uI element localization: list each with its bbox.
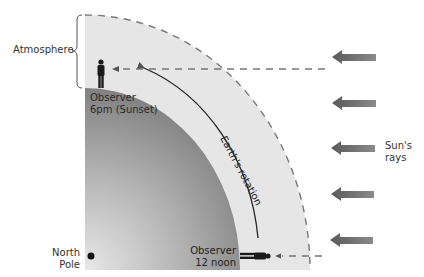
observer-noon-label: Observer 12 noon xyxy=(182,245,236,269)
sun-ray-arrow-icon xyxy=(330,233,373,247)
sun-ray-arrow-icon xyxy=(332,96,376,110)
north-pole-line1: North xyxy=(40,247,80,259)
atmosphere-label: Atmosphere xyxy=(13,44,74,56)
north-pole-label: North Pole xyxy=(40,247,80,271)
north-pole-dot xyxy=(88,253,95,260)
sun-rays-line1: Sun's xyxy=(385,140,412,152)
observer-noon-line1: Observer xyxy=(182,245,236,257)
observer-sunset-label: Observer 6pm (Sunset) xyxy=(90,92,158,116)
observer-sunset-line2: 6pm (Sunset) xyxy=(90,104,158,116)
sun-ray-arrow-icon xyxy=(332,50,376,64)
sun-rays-line2: rays xyxy=(385,152,412,164)
sun-ray-arrow-icon xyxy=(331,141,375,155)
sun-rays-label: Sun's rays xyxy=(385,140,412,164)
observer-sunset-line1: Observer xyxy=(90,92,158,104)
diagram-canvas xyxy=(0,0,424,277)
sun-ray-arrows xyxy=(330,50,376,247)
sun-ray-arrow-icon xyxy=(331,187,374,201)
observer-noon-line2: 12 noon xyxy=(182,257,236,269)
north-pole-line2: Pole xyxy=(40,259,80,271)
